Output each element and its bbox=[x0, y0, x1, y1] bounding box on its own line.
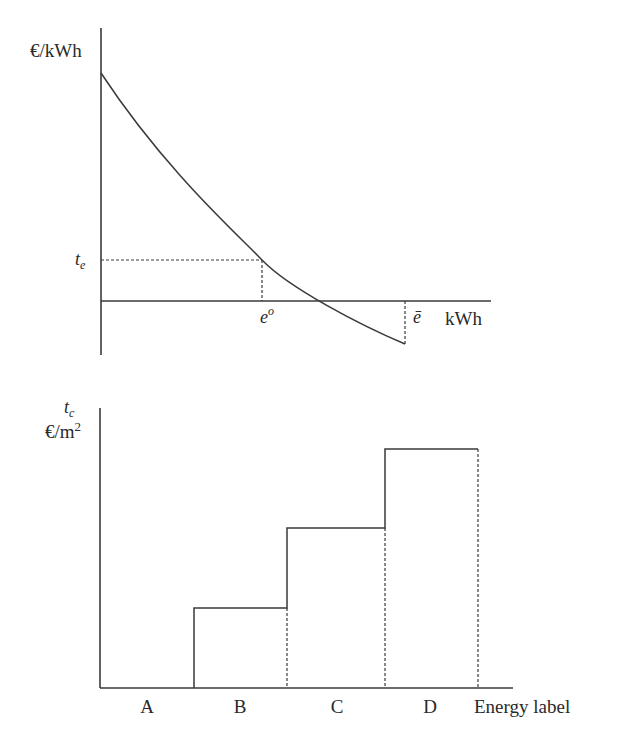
tax-step-function bbox=[194, 449, 478, 688]
bottom-y-axis-label: €/m2 bbox=[45, 419, 81, 442]
top-x-axis-label: kWh bbox=[445, 308, 482, 329]
category-label-a: A bbox=[140, 696, 154, 717]
te-label: te bbox=[75, 249, 86, 272]
category-label-d: D bbox=[423, 696, 437, 717]
figure: €/kWh te eo ē kWh tc €/m2 A B C D Energy… bbox=[0, 0, 629, 753]
bottom-x-axis-label: Energy label bbox=[474, 696, 570, 717]
tc-label: tc bbox=[64, 397, 75, 420]
top-y-axis-label: €/kWh bbox=[30, 40, 82, 61]
bottom-chart: tc €/m2 A B C D Energy label bbox=[45, 397, 570, 717]
eo-label: eo bbox=[260, 304, 274, 327]
ebar-label: ē bbox=[413, 307, 422, 327]
demand-curve bbox=[101, 73, 405, 344]
category-label-c: C bbox=[331, 696, 344, 717]
top-chart: €/kWh te eo ē kWh bbox=[30, 28, 491, 355]
category-label-b: B bbox=[234, 696, 247, 717]
